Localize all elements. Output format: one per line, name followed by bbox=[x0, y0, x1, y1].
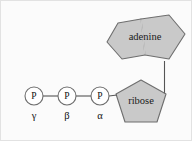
beta-phosphate-symbol: P bbox=[64, 91, 69, 101]
gamma-phosphate-symbol: P bbox=[31, 91, 36, 101]
ribose-label: ribose bbox=[128, 95, 154, 106]
alpha-phosphate: P α bbox=[91, 87, 109, 121]
alpha-ribose-bond bbox=[109, 95, 117, 96]
atp-diagram-figure: adenine ribose P γ P β P α bbox=[0, 0, 192, 141]
alpha-phosphate-symbol: P bbox=[97, 91, 102, 101]
ribose-group: ribose bbox=[116, 80, 166, 122]
gamma-phosphate: P γ bbox=[25, 87, 43, 121]
beta-phosphate-greek-label: β bbox=[64, 110, 69, 121]
adenine-group: adenine bbox=[107, 15, 185, 59]
adenine-label: adenine bbox=[129, 31, 162, 42]
gamma-phosphate-greek-label: γ bbox=[31, 110, 37, 121]
alpha-phosphate-greek-label: α bbox=[97, 110, 103, 121]
diagram-canvas: adenine ribose P γ P β P α bbox=[1, 1, 192, 141]
beta-phosphate: P β bbox=[58, 87, 76, 121]
